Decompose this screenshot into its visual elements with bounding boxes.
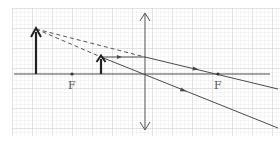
lens-ray-diagram: F F [0,0,280,141]
graph-paper-grid [12,8,280,136]
focal-point-right [216,72,219,75]
focal-label-right: F [214,79,222,92]
focal-point-left [70,72,73,75]
focal-label-left: F [68,79,76,92]
